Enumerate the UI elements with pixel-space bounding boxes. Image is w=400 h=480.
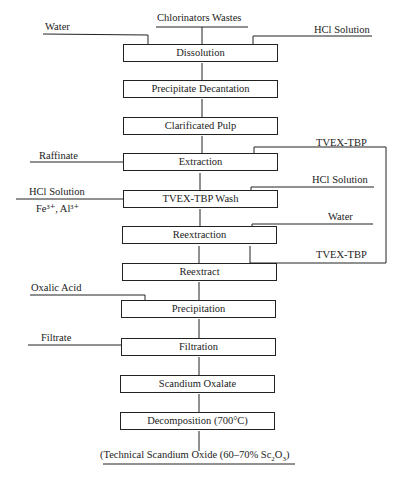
input-label: Chlorinators Wastes [157, 12, 241, 24]
water-input-label: Water [45, 21, 70, 33]
step-precipitation: Precipitation [121, 300, 276, 318]
step-tvex-tbp-wash: TVEX-TBP Wash [123, 190, 278, 208]
step-reextraction: Reextraction [122, 226, 277, 244]
step-extraction: Extraction [123, 153, 278, 171]
step-dissolution: Dissolution [123, 44, 278, 62]
raffinate-label: Raffinate [39, 150, 78, 162]
step-clarificated-pulp: Clarificated Pulp [123, 117, 278, 135]
step-scandium-oxalate: Scandium Oxalate [120, 375, 275, 393]
hcl-input-label: HCl Solution [314, 24, 370, 36]
output-label: (Technical Scandium Oxide (60–70% Sc2O3) [100, 449, 289, 461]
step-filtration: Filtration [121, 338, 276, 356]
water-reextraction-label: Water [328, 211, 353, 223]
filtrate-label: Filtrate [41, 332, 71, 344]
wash-out-label: HCl Solution [29, 186, 85, 198]
hcl-wash-input-label: HCl Solution [312, 174, 368, 186]
step-precipitate-decantation: Precipitate Decantation [123, 80, 278, 98]
step-decomposition: Decomposition (700°C) [120, 412, 275, 430]
tvex-tbp-recycle-label: TVEX-TBP [316, 249, 367, 261]
oxalic-acid-label: Oxalic Acid [31, 282, 81, 294]
tvex-tbp-input-label: TVEX-TBP [316, 137, 367, 149]
wash-out-ions-label: Fe³⁺, Al³⁺ [36, 203, 79, 215]
step-reextract: Reextract [122, 263, 277, 281]
